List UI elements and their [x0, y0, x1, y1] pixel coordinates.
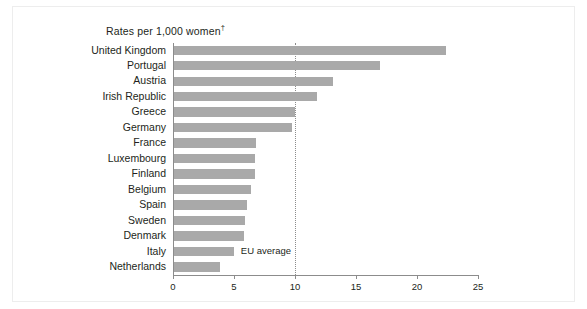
bar — [174, 200, 247, 209]
bar — [174, 262, 220, 271]
bar-row: Netherlands — [173, 260, 478, 275]
bar-row: Austria — [173, 74, 478, 89]
category-label: Irish Republic — [102, 89, 166, 104]
bar — [174, 46, 446, 55]
x-tick-label: 10 — [290, 281, 301, 292]
bar-row: Denmark — [173, 229, 478, 244]
x-tick-mark — [478, 275, 479, 279]
bar — [174, 231, 244, 240]
category-label: Portugal — [127, 58, 166, 73]
bar — [174, 216, 245, 225]
x-tick-label: 0 — [170, 281, 175, 292]
category-label: Germany — [123, 120, 166, 135]
bar-row: Belgium — [173, 182, 478, 197]
x-tick-label: 20 — [412, 281, 423, 292]
category-label: Greece — [132, 104, 166, 119]
bar — [174, 61, 380, 70]
category-label: Italy — [147, 244, 166, 259]
bar — [174, 185, 251, 194]
bar-row: Finland — [173, 167, 478, 182]
category-label: Finland — [132, 166, 166, 181]
category-label: Belgium — [128, 182, 166, 197]
category-label: France — [133, 135, 166, 150]
x-tick-mark — [234, 275, 235, 279]
bar-row: United Kingdom — [173, 43, 478, 58]
bar-row: Germany — [173, 120, 478, 135]
category-label: Denmark — [123, 228, 166, 243]
category-label: Austria — [133, 73, 166, 88]
bar — [174, 123, 292, 132]
bar — [174, 107, 295, 116]
x-tick-mark — [173, 275, 174, 279]
category-label: United Kingdom — [91, 43, 166, 58]
chart-figure: Rates per 1,000 women† EU average United… — [12, 6, 575, 302]
bar — [174, 77, 333, 86]
x-axis-line — [173, 275, 479, 276]
category-label: Netherlands — [109, 259, 166, 274]
footnote-marker: † — [221, 23, 225, 32]
x-tick-mark — [417, 275, 418, 279]
x-tick-mark — [356, 275, 357, 279]
chart-title-text: Rates per 1,000 women — [106, 25, 221, 37]
bar-row: Spain — [173, 198, 478, 213]
bar — [174, 247, 234, 256]
plot-area: EU average United KingdomPortugalAustria… — [173, 43, 478, 275]
bar-row: Sweden — [173, 213, 478, 228]
x-tick-mark — [295, 275, 296, 279]
category-label: Luxembourg — [108, 151, 166, 166]
bar — [174, 92, 317, 101]
bar — [174, 138, 256, 147]
x-tick-label: 5 — [231, 281, 236, 292]
x-tick-label: 25 — [473, 281, 484, 292]
bar-row: Italy — [173, 244, 478, 259]
bar-row: Luxembourg — [173, 151, 478, 166]
x-tick-label: 15 — [351, 281, 362, 292]
category-label: Spain — [139, 197, 166, 212]
bar — [174, 154, 255, 163]
bar-row: Greece — [173, 105, 478, 120]
category-label: Sweden — [128, 213, 166, 228]
chart-title: Rates per 1,000 women† — [106, 23, 225, 37]
bar — [174, 169, 255, 178]
bar-row: Irish Republic — [173, 89, 478, 104]
bar-row: Portugal — [173, 58, 478, 73]
bar-row: France — [173, 136, 478, 151]
